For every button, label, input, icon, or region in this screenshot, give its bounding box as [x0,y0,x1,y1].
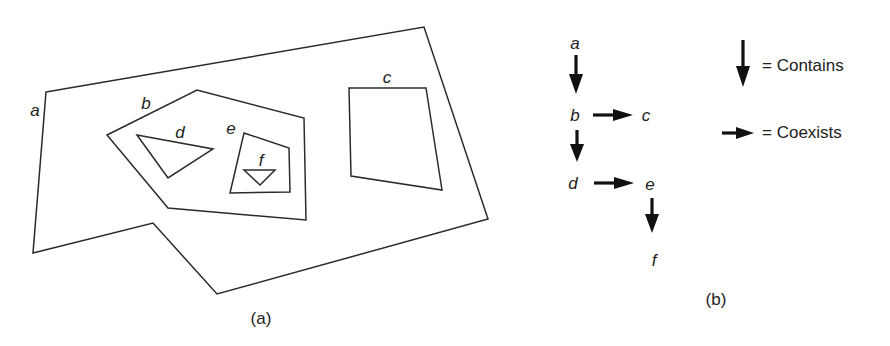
down-arrow-icon [645,198,659,233]
figure-a: a b c d e f (a) [30,27,488,328]
containment-diagram: a b c d e f (a) a b c d e f [0,0,890,346]
figure-b-caption: (b) [706,290,727,309]
region-f-label: f [259,151,266,170]
region-f-polygon [244,170,275,185]
node-e-label: e [645,175,654,194]
node-a-label: a [570,34,579,53]
region-c-label: c [383,68,392,87]
region-a-label: a [30,101,39,120]
legend-contains-down-arrow-icon [736,40,750,87]
figure-a-caption: (a) [251,309,272,328]
legend-coexists-label: = Coexists [762,123,842,142]
node-d-label: d [568,174,578,193]
node-b-label: b [570,106,579,125]
down-arrow-icon [569,55,583,94]
region-d-label: d [175,123,185,142]
region-c-polygon [349,88,442,190]
region-e-label: e [226,119,235,138]
node-f-label: f [652,251,659,270]
region-b-polygon [107,90,306,220]
legend-coexists-right-arrow-icon [722,127,754,139]
legend: = Contains = Coexists [722,40,844,142]
node-c-label: c [642,106,651,125]
right-arrow-icon [594,177,634,189]
legend-contains-label: = Contains [762,56,844,75]
right-arrow-icon [593,109,633,121]
figure-b: a b c d e f [568,34,843,309]
down-arrow-icon [570,130,584,162]
region-b-label: b [141,94,150,113]
